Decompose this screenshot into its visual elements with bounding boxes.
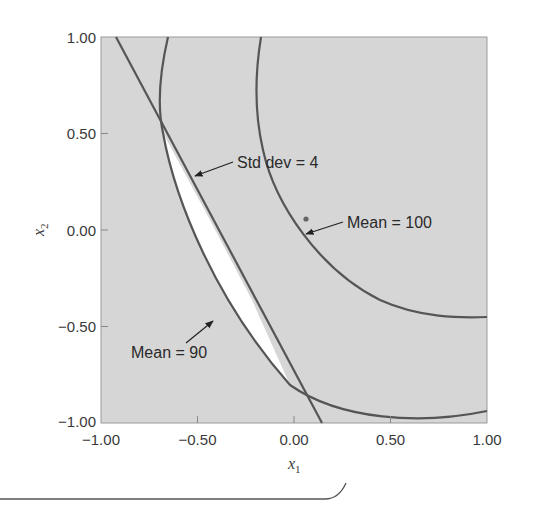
y-tick-0.5: 0.50 — [67, 125, 96, 142]
y-tick-1: 1.00 — [67, 29, 96, 46]
y-axis-title: x2 — [30, 223, 50, 237]
y-tick-neg0.5: −0.50 — [58, 318, 96, 335]
mean-100-label: Mean = 100 — [347, 214, 432, 231]
x-tick-neg1: −1.00 — [82, 431, 120, 448]
mean-point — [303, 216, 308, 221]
y-tick-neg1: −1.00 — [58, 413, 96, 430]
x-axis-title: x1 — [287, 455, 301, 475]
svg-text:x2: x2 — [30, 223, 50, 237]
chart: Std dev = 4 Mean = 100 Mean = 90 1.00 0.… — [0, 0, 539, 512]
x-tick-neg0.5: −0.50 — [179, 431, 217, 448]
figure-bracket — [0, 483, 346, 499]
x-tick-0.5: 0.50 — [376, 431, 405, 448]
x-tick-0: 0.00 — [279, 431, 308, 448]
y-tick-0: 0.00 — [67, 222, 96, 239]
std-dev-label: Std dev = 4 — [237, 154, 318, 171]
x-tick-1: 1.00 — [472, 431, 501, 448]
mean-90-label: Mean = 90 — [131, 344, 207, 361]
